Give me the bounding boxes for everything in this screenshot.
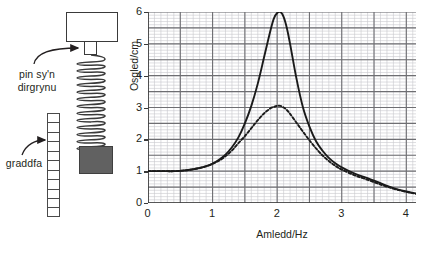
figure-root: pin sy'n dirgrynu graddfa 012340123456 O… [0, 0, 434, 253]
plot-area [148, 12, 416, 203]
x-tick-label: 1 [209, 207, 215, 219]
annotation-arrows [0, 0, 140, 240]
label-vibrating-pin: pin sy'n dirgrynu [2, 68, 72, 93]
x-tick-label: 0 [145, 207, 151, 219]
x-axis-label: Amledd/Hz [148, 228, 416, 240]
curve-solid [148, 12, 416, 193]
y-axis-label: Osgled/cm [128, 16, 140, 116]
chart-curves [148, 12, 416, 203]
x-tick-label: 2 [274, 207, 280, 219]
x-tick-label: 3 [338, 207, 344, 219]
clipped-caption [8, 246, 308, 253]
y-tick-label: 0 [136, 196, 142, 208]
y-tick-label: 1 [136, 164, 142, 176]
resonance-chart: 012340123456 Osgled/cm Amledd/Hz [120, 0, 434, 253]
label-scale: graddfa [0, 157, 48, 170]
y-tick-mark [144, 203, 148, 204]
x-tick-label: 4 [403, 207, 409, 219]
apparatus-diagram: pin sy'n dirgrynu graddfa [0, 0, 140, 240]
y-tick-label: 2 [136, 132, 142, 144]
